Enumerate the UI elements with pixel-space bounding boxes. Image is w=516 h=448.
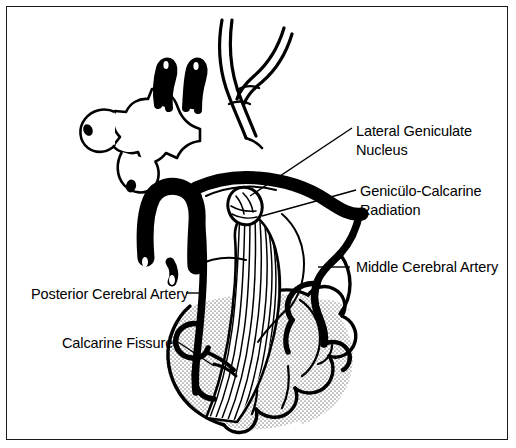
label-middle-cerebral-artery: Middle Cerebral Artery bbox=[356, 258, 498, 277]
label-posterior-cerebral-artery: Posterior Cerebral Artery bbox=[31, 285, 188, 304]
basilar-artery bbox=[142, 186, 197, 285]
label-line-2: Nucleus bbox=[356, 141, 472, 160]
label-line-1: Posterior Cerebral Artery bbox=[31, 285, 188, 304]
label-line-2: Radiation bbox=[360, 201, 482, 220]
label-calcarine-fissure: Calcarine Fissure bbox=[62, 334, 173, 353]
anatomical-figure: Lateral Geniculate Nucleus Genicülo-Calc… bbox=[0, 0, 516, 448]
label-line-1: Middle Cerebral Artery bbox=[356, 258, 498, 277]
label-line-1: Genicülo-Calcarine bbox=[360, 182, 482, 201]
label-lateral-geniculate-nucleus: Lateral Geniculate Nucleus bbox=[356, 122, 472, 160]
optic-chiasm bbox=[80, 89, 200, 194]
label-line-1: Calcarine Fissure bbox=[62, 334, 173, 353]
anatomy-diagram bbox=[0, 0, 516, 448]
label-geniculo-calcarine-radiation: Genicülo-Calcarine Radiation bbox=[360, 182, 482, 220]
label-line-1: Lateral Geniculate bbox=[356, 122, 472, 141]
anterior-cerebral-arteries bbox=[157, 61, 203, 110]
internal-carotid-artery bbox=[220, 20, 292, 148]
